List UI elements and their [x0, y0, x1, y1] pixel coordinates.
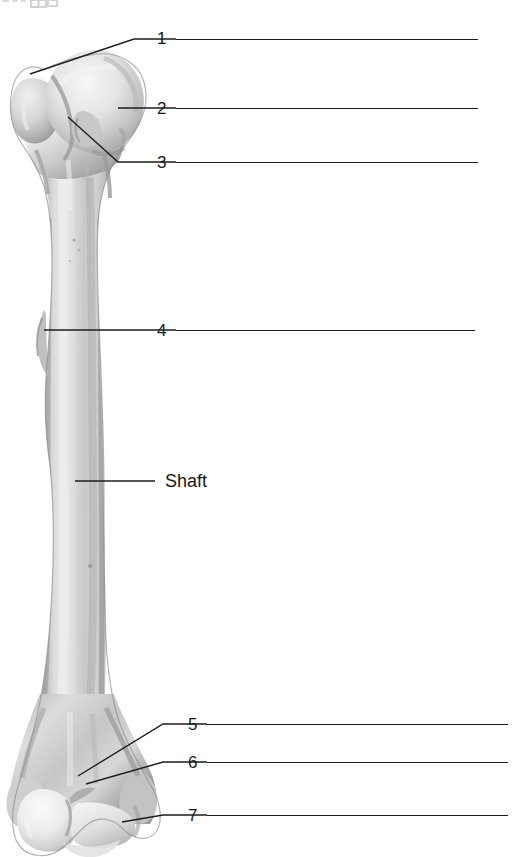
answer-line-2[interactable]	[176, 108, 478, 109]
answer-line-3[interactable]	[176, 162, 478, 163]
label-number-7: 7	[188, 807, 197, 824]
label-number-5: 5	[188, 716, 197, 733]
label-shaft: Shaft	[165, 472, 207, 490]
label-number-3: 3	[157, 154, 166, 171]
label-number-2: 2	[157, 100, 166, 117]
answer-line-1[interactable]	[176, 39, 478, 40]
humerus-bone-illustration	[0, 18, 170, 857]
humerus-labeling-worksheet: 1 2 3 4 Shaft 5 6 7	[0, 0, 530, 857]
label-number-6: 6	[188, 754, 197, 771]
scan-artifact-icon	[0, 0, 62, 9]
label-number-4: 4	[157, 322, 166, 339]
label-number-1: 1	[157, 30, 166, 47]
answer-line-7[interactable]	[207, 815, 508, 816]
answer-line-4[interactable]	[176, 330, 475, 331]
answer-line-6[interactable]	[207, 762, 508, 763]
answer-line-5[interactable]	[207, 724, 508, 725]
